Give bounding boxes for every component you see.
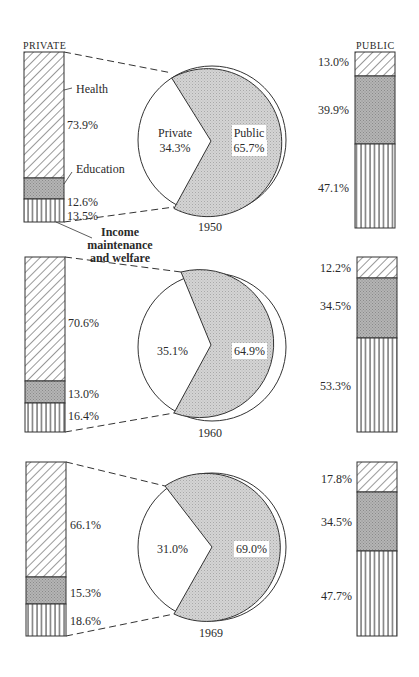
legend-income-line3: and welfare: [84, 252, 156, 265]
private-income-segment: [26, 604, 66, 636]
public-health-segment: [357, 462, 397, 492]
private-education-value: 13.0%: [68, 388, 99, 400]
public-education-segment: [357, 278, 397, 338]
private-bar-1960: [25, 257, 65, 432]
chart-canvas: [0, 0, 419, 677]
private-health-value: 73.9%: [67, 119, 98, 131]
connector-top: [64, 52, 172, 73]
public-bar-1950: [355, 52, 395, 228]
public-bar-1969: [357, 462, 397, 636]
public-income-segment: [357, 551, 397, 636]
private-education-segment: [25, 381, 65, 403]
legend-income-label: Income maintenance and welfare: [84, 226, 156, 265]
pie-public-value: 65.7%: [232, 140, 267, 156]
public-education-value: 39.9%: [318, 104, 349, 116]
public-income-segment: [357, 338, 397, 432]
private-education-segment: [24, 178, 64, 199]
private-education-value: 12.6%: [67, 196, 98, 208]
public-education-segment: [357, 492, 397, 551]
private-header: PRIVATE: [23, 40, 66, 51]
pie-private-name: Private: [150, 126, 200, 141]
private-income-segment: [25, 403, 65, 432]
panel-1960: [25, 257, 397, 432]
private-education-value: 15.3%: [70, 587, 101, 599]
panel-1969: [26, 462, 397, 636]
public-income-segment: [355, 144, 395, 228]
public-health-segment: [355, 52, 395, 76]
legend-health-label: Health: [76, 83, 108, 95]
pie-private-value-1969: 31.0%: [157, 543, 188, 555]
pie-private-value: 34.3%: [150, 141, 200, 156]
public-income-value: 53.3%: [320, 380, 351, 392]
health-leader-line: [64, 88, 72, 90]
public-income-value: 47.1%: [318, 182, 349, 194]
education-leader-line: [64, 172, 72, 184]
public-health-segment: [357, 257, 397, 278]
private-health-value: 70.6%: [68, 317, 99, 329]
year-label-1960: 1960: [198, 427, 222, 439]
year-label-1969: 1969: [199, 627, 223, 639]
private-health-segment: [25, 257, 65, 381]
public-health-value: 13.0%: [318, 56, 349, 68]
public-header: PUBLIC: [356, 40, 395, 51]
legend-education-label: Education: [76, 163, 125, 175]
pie-private-label-1950: Private 34.3%: [150, 126, 200, 156]
pie-public-name: Public: [232, 125, 267, 141]
pie-public-value-1960: 64.9%: [232, 345, 267, 357]
private-health-value: 66.1%: [70, 519, 101, 531]
public-education-value: 34.5%: [320, 300, 351, 312]
pie-public-value: 64.9%: [232, 343, 267, 359]
pie-public-value-1969: 69.0%: [234, 543, 269, 555]
connector-top: [66, 462, 165, 486]
private-bar-1950: [24, 52, 64, 222]
private-income-value: 18.6%: [70, 615, 101, 627]
year-label-1950: 1950: [198, 221, 222, 233]
private-bar-1969: [26, 462, 66, 636]
private-income-value: 13.5%: [67, 210, 98, 222]
private-health-segment: [24, 52, 64, 178]
private-health-segment: [26, 462, 66, 577]
private-education-segment: [26, 577, 66, 604]
public-income-value: 47.7%: [321, 590, 352, 602]
private-income-value: 16.4%: [68, 410, 99, 422]
pie-public-value: 69.0%: [234, 541, 269, 557]
public-health-value: 12.2%: [320, 262, 351, 274]
pie-private-value-1960: 35.1%: [157, 345, 188, 357]
public-bar-1960: [357, 257, 397, 432]
public-health-value: 17.8%: [321, 473, 352, 485]
private-income-segment: [24, 199, 64, 222]
public-education-value: 34.5%: [321, 516, 352, 528]
pie-public-label-1950: Public 65.7%: [228, 126, 270, 156]
public-education-segment: [355, 76, 395, 144]
